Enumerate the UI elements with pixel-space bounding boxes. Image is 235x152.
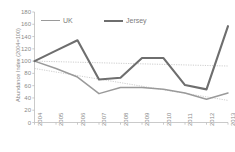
- legend-label-uk: UK: [63, 17, 73, 24]
- trendline: [35, 61, 229, 66]
- legend-item-jersey[interactable]: Jersey: [104, 17, 147, 24]
- legend-label-jersey: Jersey: [126, 17, 147, 24]
- chart-container: Abundance Index (2004=100) 0204060801001…: [0, 0, 235, 152]
- legend-item-uk[interactable]: UK: [41, 17, 73, 24]
- series-line-jersey: [35, 26, 229, 89]
- trendline: [35, 68, 229, 100]
- legend-swatch-jersey-icon: [104, 20, 123, 22]
- data-series: [35, 26, 229, 99]
- legend-swatch-uk-icon: [41, 20, 60, 21]
